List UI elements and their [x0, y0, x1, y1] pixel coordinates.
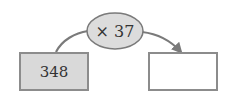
- input-value: 348: [40, 63, 69, 81]
- output-box[interactable]: [149, 53, 217, 90]
- operation-label: × 37: [96, 22, 135, 41]
- operation-diagram: × 37 348: [0, 0, 231, 98]
- arrow: [142, 32, 181, 52]
- connector-line: [56, 31, 88, 52]
